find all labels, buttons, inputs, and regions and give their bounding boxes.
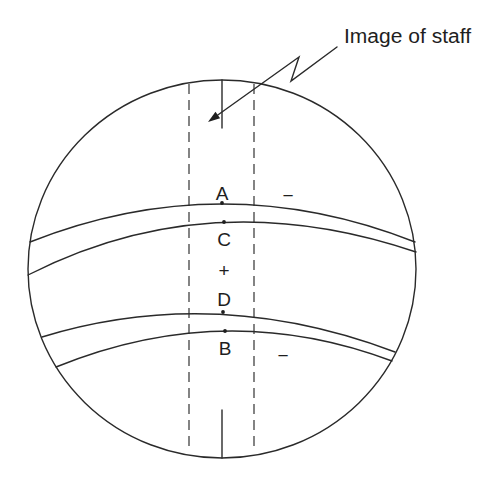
staff-reading-diagram: A C D B − + − Image of staff — [0, 0, 498, 489]
center-plus-sign: + — [218, 260, 229, 281]
point-d-label: D — [217, 289, 231, 310]
point-c-dot — [222, 220, 226, 224]
point-d-dot — [221, 310, 225, 314]
point-b-label: B — [219, 338, 232, 359]
point-c-label: C — [217, 229, 231, 250]
lower-minus-sign: − — [277, 345, 288, 366]
point-a-label: A — [216, 183, 229, 204]
point-b-dot — [223, 329, 227, 333]
image-of-staff-label: Image of staff — [344, 25, 471, 47]
diagram-canvas: A C D B − + − Image of staff — [0, 0, 498, 489]
background — [0, 0, 498, 489]
upper-minus-sign: − — [282, 185, 293, 206]
